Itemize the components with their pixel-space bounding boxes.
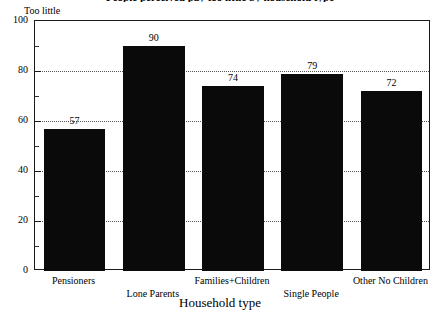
x-axis-label: Pensioners [14,275,134,286]
y-tick-minor-30 [35,196,39,197]
bar-value-label: 74 [202,73,264,83]
x-axis-title: Household type [0,296,440,310]
bar [44,129,106,272]
y-axis-label-20: 20 [2,215,28,225]
y-tick-major-20 [35,221,41,222]
y-tick-major-40 [35,171,41,172]
chart-title: People perceived pay too little by house… [0,0,440,2]
bar [361,91,423,271]
bar-value-label: 57 [44,116,106,126]
y-axis-label-60: 60 [2,115,28,125]
bar [123,46,185,271]
bar-value-label: 90 [123,33,185,43]
bar-value-label: 72 [361,78,423,88]
bar [202,86,264,271]
series-legend-label: Too little [24,5,60,16]
y-tick-minor-70 [35,96,39,97]
x-axis-label: Other No Children [330,275,440,286]
bar-value-label: 79 [281,61,343,71]
y-tick-minor-90 [35,46,39,47]
plot-inner: 5790747972 [35,21,429,269]
plot-area: 5790747972 [34,20,430,270]
bar [281,74,343,272]
bar-chart: People perceived pay too little by house… [0,0,440,315]
y-tick-minor-10 [35,246,39,247]
y-axis-label-100: 100 [2,15,28,25]
y-tick-minor-50 [35,146,39,147]
x-axis-label: Families+Children [172,275,292,286]
y-axis-label-0: 0 [2,265,28,275]
y-tick-major-80 [35,71,41,72]
y-axis-label-40: 40 [2,165,28,175]
y-tick-major-60 [35,121,41,122]
y-axis-label-80: 80 [2,65,28,75]
